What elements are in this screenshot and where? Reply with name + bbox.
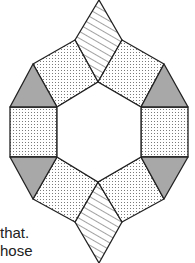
tiling-figure	[0, 0, 195, 263]
text-fragment-that: that.	[0, 225, 29, 240]
square-right	[141, 107, 188, 157]
text-fragment-hose: hose	[0, 243, 33, 258]
square-left	[10, 107, 57, 157]
